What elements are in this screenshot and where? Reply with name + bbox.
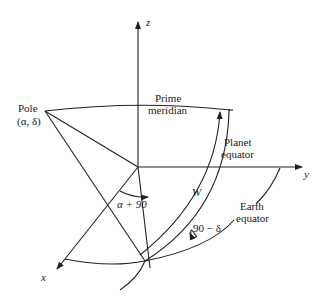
celestial-pole-diagram: z y x Pole (α, δ) Prime meridian Planet … [0, 0, 324, 303]
prime-meridian-label-2: meridian [148, 104, 188, 116]
earth-equator-label-1: Earth [240, 200, 264, 212]
w-angle-label: W [192, 186, 202, 198]
planet-equator-arc [145, 112, 229, 261]
pole-coords-label: (α, δ) [17, 115, 41, 128]
pole-to-node-line [45, 111, 145, 261]
earth-equator-label-2: equator [236, 212, 269, 224]
y-axis-label: y [303, 168, 309, 180]
x-axis [57, 167, 138, 269]
earth-equator-leader [256, 168, 280, 204]
planet-equator-label-1: Planet [224, 136, 252, 148]
x-axis-label: x [40, 271, 46, 283]
prime-meridian-label-1: Prime [155, 92, 181, 104]
alpha-angle-label: α + 90 [117, 198, 147, 210]
alpha-angle-arc [120, 191, 148, 197]
earth-equator-lower-arc [120, 261, 145, 290]
pole-to-origin-line [45, 111, 138, 167]
delta-angle-label: 90 − δ [193, 222, 221, 234]
planet-equator-label-2: equator [221, 148, 254, 160]
pole-label: Pole [18, 102, 38, 114]
z-axis-label: z [145, 16, 151, 28]
